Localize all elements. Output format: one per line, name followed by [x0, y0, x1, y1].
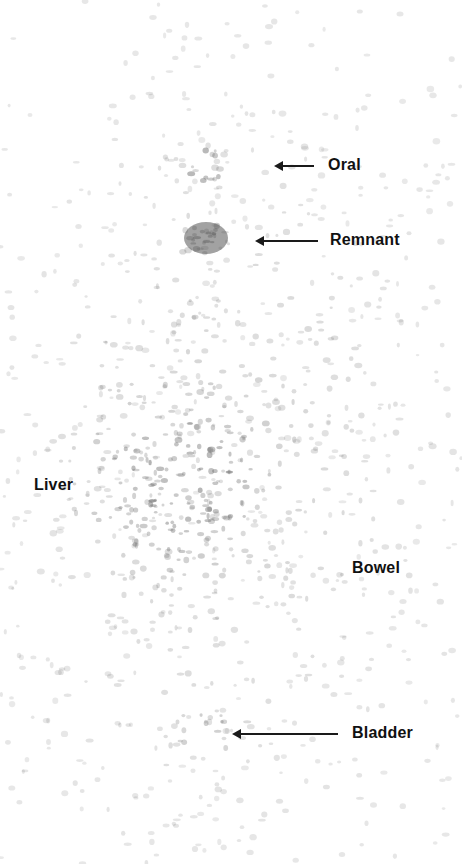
label-bladder: Bladder [352, 724, 413, 742]
label-oral: Oral [328, 156, 361, 174]
label-remnant: Remnant [330, 231, 400, 249]
scintigraphy-figure: Oral Remnant Liver Bowel Bladder [0, 0, 462, 864]
label-liver: Liver [34, 476, 73, 494]
bladder-arrow-icon [239, 733, 338, 735]
label-bowel: Bowel [352, 559, 400, 577]
oral-arrow-icon [281, 165, 314, 167]
remnant-arrow-icon [262, 240, 318, 242]
